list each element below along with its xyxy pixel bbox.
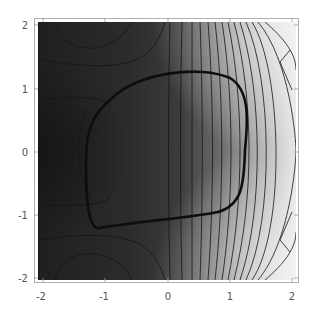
- contour-plot: 2 1 0 -1 -2 -2 -1 0 1 2: [0, 0, 318, 313]
- y-tick-label: -1: [18, 210, 28, 221]
- x-tick-label: 0: [165, 291, 171, 302]
- x-tick-label: -1: [99, 291, 109, 302]
- y-tick-label: 0: [22, 147, 28, 158]
- y-tick-label: 1: [22, 84, 28, 95]
- y-tick-label: 2: [22, 20, 28, 31]
- x-tick-label: 1: [227, 291, 233, 302]
- y-tick-label: -2: [18, 273, 28, 284]
- plot-area: [38, 22, 296, 280]
- x-tick-label: 2: [289, 291, 295, 302]
- x-tick-label: -2: [36, 291, 46, 302]
